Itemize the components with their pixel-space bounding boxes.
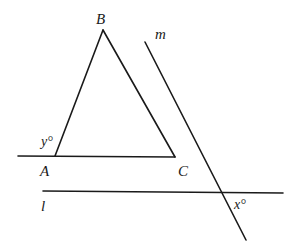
point-label-c: C	[178, 164, 188, 179]
segment-bc	[103, 30, 175, 157]
line-l	[43, 191, 283, 193]
line-through-ac	[18, 156, 175, 157]
segment-ab	[55, 30, 103, 156]
angle-label-x: x°	[234, 198, 246, 212]
line-label-m: m	[155, 27, 166, 42]
point-label-a: A	[40, 164, 49, 179]
line-label-l: l	[41, 199, 45, 214]
angle-label-y: y°	[41, 135, 53, 149]
point-label-b: B	[96, 12, 105, 27]
line-m	[145, 42, 246, 240]
